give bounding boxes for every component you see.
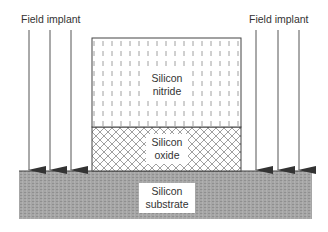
substrate-label-line2: substrate bbox=[145, 198, 188, 210]
substrate-label-line1: Silicon bbox=[152, 185, 183, 197]
nitride-label-line1: Silicon bbox=[152, 72, 183, 84]
field-implant-label-right: Field implant bbox=[249, 13, 309, 25]
field-implant-label-left: Field implant bbox=[21, 13, 81, 25]
nitride-label-line2: nitride bbox=[153, 85, 182, 97]
oxide-label-line2: oxide bbox=[154, 149, 179, 161]
oxide-label-line1: Silicon bbox=[152, 136, 183, 148]
field-implant-diagram: Silicon nitride Silicon oxide Silicon su… bbox=[0, 0, 328, 232]
